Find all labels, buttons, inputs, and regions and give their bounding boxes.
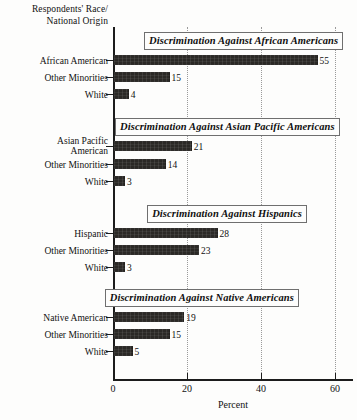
x-tick-label-0: 0: [111, 383, 116, 394]
category-label: Other Minorities: [4, 330, 108, 340]
category-label: Other Minorities: [4, 246, 108, 256]
category-label: Hispanic: [4, 229, 108, 239]
x-axis-title: Percent: [113, 399, 353, 410]
bar: [114, 159, 166, 169]
y-axis-caption: Respondents' Race/ National Origin: [4, 4, 108, 27]
gridline-40: [261, 27, 262, 379]
bar-value-label: 21: [194, 142, 204, 152]
bar: [114, 262, 125, 272]
category-label: Asian PacificAmerican: [4, 136, 108, 156]
y-axis-caption-line1: Respondents' Race/: [4, 4, 108, 16]
bar-value-label: 55: [320, 56, 330, 66]
x-tick-20: [187, 373, 188, 380]
x-tick-60: [335, 373, 336, 380]
bar-value-label: 15: [172, 330, 182, 340]
bar: [114, 312, 184, 322]
bar-value-label: 3: [127, 177, 132, 187]
bar: [114, 141, 192, 151]
bar: [114, 245, 199, 255]
x-tick-label-20: 20: [182, 383, 192, 394]
bar: [114, 228, 218, 238]
category-label: African American: [4, 56, 108, 66]
category-label: Other Minorities: [4, 160, 108, 170]
bar-value-label: 23: [201, 246, 211, 256]
category-label: Other Minorities: [4, 73, 108, 83]
bar-chart-figure: Respondents' Race/ National Origin Afric…: [0, 0, 357, 420]
category-label: White: [4, 90, 108, 100]
gridline-20: [187, 27, 188, 379]
category-label: White: [4, 177, 108, 187]
y-axis-caption-line2: National Origin: [4, 16, 108, 28]
bar-value-label: 19: [186, 313, 196, 323]
bar-value-label: 14: [168, 160, 178, 170]
category-label: White: [4, 263, 108, 273]
x-tick-label-60: 60: [330, 383, 340, 394]
bar: [114, 329, 170, 339]
bar-value-label: 4: [131, 90, 136, 100]
bar-value-label: 15: [172, 73, 182, 83]
panel-title-2: Discrimination Against Asian Pacific Ame…: [115, 118, 340, 136]
category-label: Native American: [4, 313, 108, 323]
panel-title-4: Discrimination Against Native Americans: [105, 289, 299, 307]
bar: [114, 346, 133, 356]
bar: [114, 89, 129, 99]
bar-value-label: 28: [220, 229, 230, 239]
bar-value-label: 3: [127, 263, 132, 273]
x-tick-40: [261, 373, 262, 380]
value-axis-line: [113, 379, 353, 381]
x-tick-label-40: 40: [256, 383, 266, 394]
panel-title-1: Discrimination Against African Americans: [144, 32, 343, 50]
gridline-60: [335, 27, 336, 379]
bar: [114, 72, 170, 82]
bar: [114, 176, 125, 186]
bar-value-label: 5: [135, 347, 140, 357]
panel-title-3: Discrimination Against Hispanics: [147, 205, 307, 223]
category-label-line: Asian Pacific: [4, 136, 108, 146]
category-label: White: [4, 347, 108, 357]
bar: [114, 55, 318, 65]
plot-area: 55154211432823319155 Discrimination Agai…: [113, 27, 353, 380]
category-label-line: American: [4, 146, 108, 156]
